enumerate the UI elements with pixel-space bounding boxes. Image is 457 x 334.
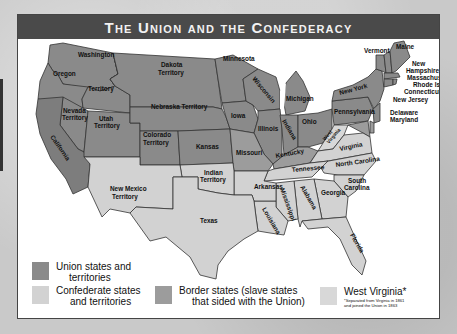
label-nevada: Nevada — [63, 107, 86, 114]
state-massachusetts[interactable] — [384, 73, 400, 79]
label-indian-territory: Territory — [200, 176, 226, 184]
title-bar: The Union and the Confederacy — [18, 15, 439, 39]
label-kansas: Kansas — [196, 143, 219, 150]
legend-confederate-label-2: and territories — [56, 297, 141, 308]
legend-union-label: Union states and — [56, 262, 131, 273]
label-tennessee: Tennessee — [291, 163, 324, 173]
label-connecticut: Connecticut — [404, 88, 439, 95]
label-maryland: Maryland — [390, 116, 418, 124]
label-colorado-territory: Territory — [143, 139, 169, 147]
label-nebraska: Nebraska Territory — [151, 103, 208, 111]
state-connecticut[interactable] — [384, 79, 393, 87]
map-title: The Union and the Confederacy — [105, 19, 353, 36]
legend-union: Union states and territories — [32, 262, 131, 283]
label-dakota-territory: Territory — [158, 69, 184, 77]
legend-confederate: Confederate states and territories — [32, 286, 141, 307]
swatch-border — [155, 286, 172, 304]
state-michigan[interactable] — [283, 71, 310, 115]
legend-west-virginia-label: West Virginia* — [344, 287, 406, 298]
swatch-union — [32, 262, 49, 280]
legend-union-label-2: territories — [56, 273, 131, 284]
label-south-carolina-2: Carolina — [344, 184, 370, 191]
label-territory: Territory — [88, 85, 114, 93]
label-vermont: Vermont — [364, 47, 390, 54]
territory-nebraska[interactable] — [130, 107, 230, 131]
swatch-west-virginia — [320, 287, 337, 305]
legend-footnote-2: and joined the Union in 1863 — [344, 304, 406, 309]
label-new-jersey: New Jersey — [393, 96, 429, 104]
label-utah: Utah — [99, 115, 113, 122]
label-illinois: Illinois — [258, 125, 279, 132]
label-rhode-island: Rhode Island — [413, 81, 439, 88]
label-new-hampshire: New — [412, 60, 425, 67]
label-new-mexico: New Mexico — [110, 185, 147, 192]
label-delaware: Delaware — [390, 109, 419, 116]
label-indian: Indian — [204, 169, 223, 176]
label-iowa: Iowa — [231, 112, 246, 119]
label-michigan: Michigan — [286, 95, 314, 103]
label-massachusetts: Massachusetts — [407, 74, 439, 81]
legend-border: Border states (slave states that sided w… — [155, 286, 305, 307]
legend-west-virginia: West Virginia* *Separated from Virginia … — [320, 287, 406, 309]
legend-border-label: Border states (slave states — [179, 286, 305, 297]
legend-border-label-2: that sided with the Union) — [179, 297, 305, 308]
label-oregon: Oregon — [53, 70, 76, 78]
label-pennsylvania: Pennsylvania — [334, 108, 375, 116]
label-washington: Washington — [78, 51, 114, 59]
label-georgia: Georgia — [321, 189, 346, 197]
label-missouri: Missouri — [236, 149, 263, 156]
state-rhode-island[interactable] — [393, 79, 397, 85]
label-south-carolina: South — [348, 177, 366, 184]
swatch-confederate — [32, 286, 49, 304]
label-colorado: Colorado — [143, 131, 171, 138]
state-delaware[interactable] — [370, 121, 374, 133]
label-nevada-territory: Territory — [62, 114, 88, 122]
label-utah-territory: Territory — [94, 122, 120, 130]
label-maine: Maine — [396, 43, 415, 50]
page-edge-strip — [0, 79, 3, 171]
map-frame: The Union and the Confederacy — [17, 14, 440, 319]
legend-confederate-label: Confederate states — [56, 286, 141, 297]
label-arkansas: Arkansas — [254, 183, 283, 190]
label-minnesota: Minnesota — [223, 55, 255, 62]
label-ohio: Ohio — [302, 118, 317, 125]
label-dakota: Dakota — [161, 61, 183, 68]
label-new-mexico-territory: Territory — [112, 193, 138, 201]
label-texas: Texas — [200, 217, 218, 224]
